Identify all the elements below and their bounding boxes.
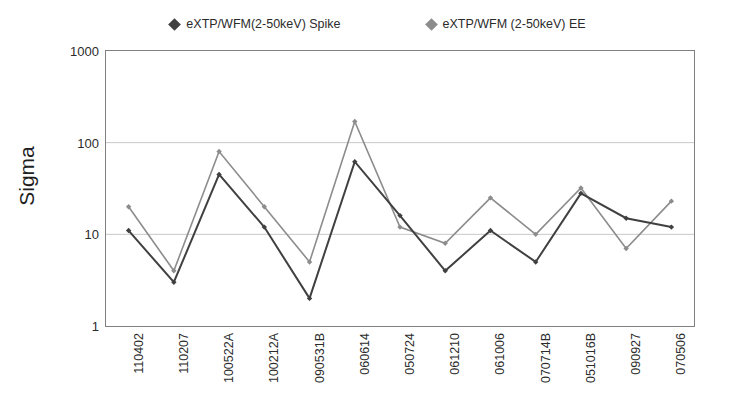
plot-area bbox=[105, 50, 695, 327]
x-tick-label: 061210 bbox=[449, 333, 462, 375]
chart-container: eXTP/WFM(2-50keV) Spike eXTP/WFM (2-50ke… bbox=[0, 0, 756, 411]
legend-marker-diamond-icon bbox=[425, 18, 438, 31]
data-point-marker bbox=[397, 224, 402, 229]
x-tick-label: 090927 bbox=[630, 333, 643, 375]
x-tick-label: 070506 bbox=[675, 333, 688, 375]
x-tick-label: 110402 bbox=[133, 333, 146, 374]
x-axis-ticks: 110402110207100522A100212A090531B0606140… bbox=[105, 333, 695, 411]
legend-entry-ee: eXTP/WFM (2-50keV) EE bbox=[427, 18, 586, 31]
x-tick-label: 050724 bbox=[404, 333, 417, 375]
data-point-marker bbox=[669, 224, 674, 229]
legend-marker-diamond-icon bbox=[168, 18, 181, 31]
y-tick-label: 1000 bbox=[53, 45, 99, 58]
x-tick-label: 051016B bbox=[585, 333, 598, 383]
legend-label-spike: eXTP/WFM(2-50keV) Spike bbox=[186, 18, 340, 31]
y-tick-label: 10 bbox=[53, 228, 99, 241]
x-tick-label: 100212A bbox=[268, 333, 281, 383]
y-axis-ticks: 1000100101 bbox=[49, 0, 99, 411]
data-point-marker bbox=[352, 119, 357, 124]
x-tick-label: 090531B bbox=[314, 333, 327, 383]
x-tick-label: 070714B bbox=[540, 333, 553, 383]
chart-legend: eXTP/WFM(2-50keV) Spike eXTP/WFM (2-50ke… bbox=[0, 13, 756, 35]
x-tick-label: 061006 bbox=[494, 333, 507, 375]
legend-entry-spike: eXTP/WFM(2-50keV) Spike bbox=[170, 18, 340, 31]
y-tick-label: 100 bbox=[53, 137, 99, 150]
series-line bbox=[129, 162, 672, 299]
x-tick-label: 100522A bbox=[223, 333, 236, 383]
y-axis-title-text: Sigma bbox=[15, 146, 39, 206]
plot-svg bbox=[106, 51, 694, 326]
x-tick-label: 060614 bbox=[359, 333, 372, 375]
x-tick-label: 110207 bbox=[178, 333, 191, 374]
y-tick-label: 1 bbox=[53, 320, 99, 333]
legend-label-ee: eXTP/WFM (2-50keV) EE bbox=[443, 18, 586, 31]
